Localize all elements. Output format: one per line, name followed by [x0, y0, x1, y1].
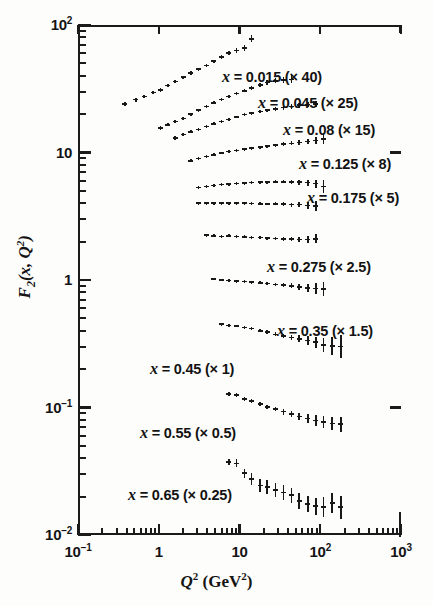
series-label: x = 0.125 (× 8): [299, 155, 391, 173]
x-tick-minor: [263, 528, 265, 535]
y-tick-minor: [78, 299, 86, 301]
figure-canvas: F2(x, Q2) Q2 (GeV2) 10210110−110−210−111…: [0, 0, 433, 605]
x-tick-top: [158, 25, 160, 34]
x-tick-minor: [311, 528, 313, 535]
x-tick-minor: [206, 528, 208, 535]
series-label: x = 0.275 (× 2.5): [267, 258, 371, 276]
y-tick-minor: [78, 457, 86, 459]
x-tick-major: [319, 524, 321, 535]
x-tick-label: 10: [231, 543, 247, 560]
y-tick-minor: [78, 307, 86, 309]
y-tick-minor: [78, 346, 86, 348]
x-tick-minor: [287, 528, 289, 535]
series-label: x = 0.015 (× 40): [222, 68, 322, 86]
y-tick-minor: [78, 241, 86, 243]
x-tick-minor: [226, 528, 228, 535]
y-tick-minor: [78, 291, 86, 293]
x-tick-minor: [358, 528, 360, 535]
y-tick-minor: [78, 171, 86, 173]
y-tick-minor: [78, 52, 86, 54]
x-tick-minor: [126, 528, 128, 535]
x-tick-minor: [133, 528, 135, 535]
y-tick-minor: [78, 330, 86, 332]
y-tick-label: 1: [64, 271, 72, 288]
y-tick-minor: [78, 218, 86, 220]
x-tick-minor: [277, 528, 279, 535]
y-tick-minor: [78, 412, 86, 414]
y-tick-label: 10−2: [45, 526, 72, 543]
x-tick-minor: [392, 528, 394, 535]
x-tick-major: [158, 524, 160, 535]
y-tick-minor: [78, 75, 86, 77]
y-tick-minor: [78, 30, 86, 32]
x-tick-minor: [154, 528, 156, 535]
y-tick-minor: [78, 426, 86, 428]
y-tick-right: [390, 406, 401, 408]
x-tick-minor: [301, 528, 303, 535]
y-tick-minor: [78, 113, 86, 115]
x-tick-label: 103: [390, 543, 411, 560]
y-axis-title: F2(x, Q2): [15, 192, 38, 342]
x-tick-minor: [368, 528, 370, 535]
x-tick-label: 10−1: [65, 543, 92, 560]
y-tick-minor: [78, 157, 86, 159]
x-tick-minor: [214, 528, 216, 535]
y-tick-minor: [78, 435, 86, 437]
x-tick-minor: [196, 528, 198, 535]
x-tick-minor: [235, 528, 237, 535]
x-tick-label: 102: [310, 543, 331, 560]
y-tick-minor: [78, 190, 86, 192]
series-label: x = 0.55 (× 0.5): [140, 424, 236, 442]
y-tick-minor: [78, 36, 86, 38]
y-tick-minor: [78, 62, 86, 64]
y-tick-minor: [78, 419, 86, 421]
y-tick-minor: [78, 473, 86, 475]
x-tick-minor: [150, 528, 152, 535]
y-tick-right: [390, 151, 401, 153]
x-tick-major: [400, 524, 402, 535]
y-tick-minor: [78, 496, 86, 498]
x-tick-minor: [231, 528, 233, 535]
y-tick-major: [78, 406, 91, 408]
x-tick-minor: [295, 528, 297, 535]
x-axis-title: Q2 (GeV2): [0, 572, 433, 592]
x-tick-top: [319, 25, 321, 34]
series-label: x = 0.045 (× 25): [258, 94, 358, 112]
y-tick-label: 10−1: [45, 399, 72, 416]
y-tick-major: [78, 151, 91, 153]
x-tick-minor: [116, 528, 118, 535]
x-tick-minor: [307, 528, 309, 535]
x-tick-minor: [316, 528, 318, 535]
x-tick-minor: [221, 528, 223, 535]
y-tick-minor: [78, 317, 86, 319]
x-tick-major: [77, 524, 79, 535]
x-tick-minor: [182, 528, 184, 535]
y-tick-major: [78, 534, 91, 536]
y-tick-major: [78, 24, 91, 26]
y-tick-minor: [78, 164, 86, 166]
y-tick-minor: [78, 285, 86, 287]
y-tick-minor: [78, 44, 86, 46]
x-tick-minor: [344, 528, 346, 535]
x-tick-minor: [101, 528, 103, 535]
y-tick-minor: [78, 202, 86, 204]
y-tick-label: 10: [56, 144, 72, 161]
y-tick-minor: [78, 368, 86, 370]
x-tick-minor: [387, 528, 389, 535]
y-tick-minor: [78, 91, 86, 93]
x-tick-major: [238, 524, 240, 535]
series-label: x = 0.175 (× 5): [307, 189, 399, 207]
x-tick-top: [400, 25, 402, 34]
x-tick-minor: [376, 528, 378, 535]
x-tick-minor: [396, 528, 398, 535]
y-tick-minor: [78, 445, 86, 447]
x-tick-minor: [382, 528, 384, 535]
x-tick-top: [238, 25, 240, 34]
series-label: x = 0.45 (× 1): [150, 360, 234, 378]
series-label: x = 0.65 (× 0.25): [128, 486, 232, 504]
x-tick-minor: [140, 528, 142, 535]
y-tick-major: [78, 279, 91, 281]
series-label: x = 0.35 (× 1.5): [277, 322, 373, 340]
y-tick-label: 102: [51, 16, 72, 33]
series-label: x = 0.08 (× 15): [283, 121, 375, 139]
